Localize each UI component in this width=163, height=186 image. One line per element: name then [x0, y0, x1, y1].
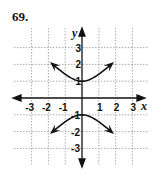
hyperbola-graph: -3-2-1123321-1-2-3xy — [0, 0, 163, 186]
x-tick-label: -3 — [25, 102, 34, 113]
x-tick-label: -2 — [42, 102, 51, 113]
y-tick-label: 3 — [75, 43, 81, 54]
x-tick-label: -1 — [59, 102, 68, 113]
y-axis-down-arrow-icon — [79, 159, 85, 167]
y-axis-up-arrow-icon — [79, 28, 85, 36]
y-tick-label: -3 — [71, 143, 80, 154]
y-tick-label: 1 — [75, 76, 81, 87]
y-axis-label: y — [70, 26, 78, 40]
y-tick-label: 2 — [75, 59, 81, 70]
y-tick-label: -1 — [71, 110, 80, 121]
x-axis-left-arrow-icon — [13, 95, 21, 101]
x-axis-label: x — [140, 99, 147, 113]
x-tick-label: 2 — [114, 102, 120, 113]
grid-lines — [14, 28, 148, 166]
y-tick-label: -2 — [71, 127, 80, 138]
x-tick-label: 3 — [131, 102, 137, 113]
x-tick-label: 1 — [97, 102, 103, 113]
tick-labels: -3-2-1123321-1-2-3xy — [25, 26, 147, 154]
